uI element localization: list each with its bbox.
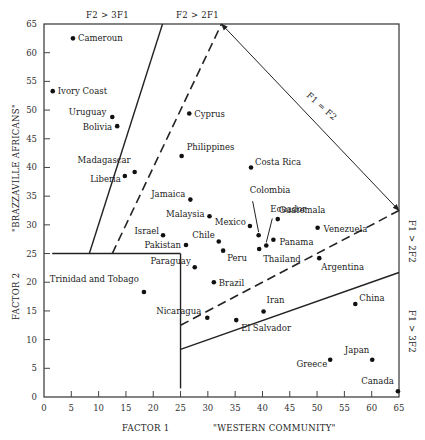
data-point: Thailand	[257, 247, 301, 264]
y-tick-label: 0	[32, 392, 37, 402]
data-point: Israel	[134, 226, 165, 237]
x-tick-label: 0	[41, 403, 46, 413]
point-marker	[257, 247, 262, 252]
region-line	[222, 24, 400, 211]
data-point: Chile	[192, 230, 221, 243]
point-marker	[216, 239, 221, 244]
data-point: Panama	[271, 237, 313, 247]
data-point: Trinidad and Tobago	[50, 274, 146, 294]
point-marker	[248, 224, 253, 229]
point-marker	[123, 174, 128, 179]
point-label: Malaysia	[166, 209, 205, 219]
point-marker	[271, 237, 276, 242]
data-point: Venezuela	[315, 224, 367, 234]
x-axis-subtitle: "WESTERN COMMUNITY"	[213, 423, 336, 433]
point-marker	[256, 233, 261, 238]
data-point: Jamaica	[150, 189, 192, 202]
data-point: Madagascar	[78, 155, 137, 174]
data-point: Cyprus	[187, 109, 225, 119]
point-marker	[212, 280, 217, 285]
point-marker	[179, 154, 184, 159]
point-marker	[370, 357, 375, 362]
data-point: Liberia	[90, 174, 127, 184]
data-point: Canada	[361, 376, 400, 393]
point-marker	[184, 243, 189, 248]
y-axis-subtitle: "BRAZZAVILLE AFRICANS"	[11, 104, 21, 232]
point-label: Madagascar	[78, 155, 132, 165]
leader-line	[253, 201, 259, 232]
point-label: Liberia	[90, 174, 121, 184]
point-label: Brazil	[219, 278, 245, 288]
point-marker	[132, 170, 137, 175]
x-tick-label: 30	[202, 403, 213, 413]
point-marker	[221, 248, 226, 253]
y-axis-title: FACTOR 2	[11, 273, 21, 320]
data-point: Malaysia	[166, 209, 212, 219]
region-label-f1-3f2: F1 > 3F2	[407, 310, 417, 353]
y-tick-label: 60	[26, 48, 37, 58]
x-tick-label: 25	[175, 403, 186, 413]
point-label: Israel	[134, 226, 159, 236]
point-marker	[207, 214, 212, 219]
y-tick-label: 25	[26, 249, 37, 259]
point-label: Greece	[296, 359, 327, 369]
y-tick-label: 50	[26, 105, 37, 115]
point-marker	[187, 111, 192, 116]
data-point: Iran	[261, 295, 285, 313]
data-point: Bolivia	[83, 122, 120, 132]
data-point: Paraguay	[150, 256, 197, 269]
data-point: Brazil	[212, 278, 245, 288]
point-marker	[353, 302, 358, 307]
y-tick-label: 30	[26, 220, 37, 230]
x-tick-label: 5	[69, 403, 74, 413]
point-label: Panama	[279, 237, 313, 247]
data-point: Philippines	[179, 142, 234, 158]
y-tick-label: 65	[26, 19, 37, 29]
y-tick-label: 40	[26, 162, 37, 172]
point-label: China	[359, 293, 384, 303]
point-label: Canada	[361, 376, 394, 386]
plot-frame	[44, 24, 399, 397]
data-point: Guatemala	[275, 205, 325, 221]
y-tick-label: 10	[26, 335, 37, 345]
x-tick-label: 35	[230, 403, 241, 413]
x-tick-label: 15	[121, 403, 132, 413]
region-line	[89, 24, 162, 254]
data-point: Nicaragua	[156, 306, 209, 320]
point-marker	[50, 89, 55, 94]
x-tick-label: 45	[284, 403, 295, 413]
point-label: Venezuela	[323, 224, 368, 234]
x-tick-label: 60	[366, 403, 377, 413]
region-lines	[52, 24, 399, 388]
point-marker	[115, 124, 120, 129]
point-marker	[315, 225, 320, 230]
region-label-f2-2f1: F2 > 2F1	[176, 10, 219, 20]
point-label: Mexico	[215, 217, 246, 227]
point-marker	[142, 290, 147, 295]
point-label: Ivory Coast	[58, 86, 108, 96]
x-tick-label: 10	[93, 403, 104, 413]
point-marker	[396, 389, 401, 394]
data-point: Costa Rica	[249, 157, 301, 169]
x-tick-label: 55	[339, 403, 350, 413]
point-marker	[261, 309, 266, 314]
point-label: El Salvador	[241, 323, 292, 333]
point-marker	[161, 233, 166, 238]
point-label: Cameroun	[78, 33, 123, 43]
y-tick-label: 15	[26, 306, 37, 316]
region-label-f1-eq-f2: F1 = F2	[305, 90, 339, 122]
point-marker	[249, 165, 254, 170]
data-point: Pakistan	[144, 240, 188, 250]
point-label: Costa Rica	[255, 157, 301, 167]
y-tick-label: 5	[32, 363, 37, 373]
x-axis-title: FACTOR 1	[122, 423, 169, 433]
data-point: Argentina	[317, 256, 364, 272]
point-marker	[264, 243, 269, 248]
point-marker	[317, 256, 322, 261]
data-point: Uruguay	[69, 107, 115, 119]
point-label: Cyprus	[194, 109, 225, 119]
data-point: Mexico	[215, 217, 252, 228]
point-label: Guatemala	[279, 205, 326, 215]
point-label: Paraguay	[150, 256, 191, 266]
point-marker	[205, 316, 210, 321]
